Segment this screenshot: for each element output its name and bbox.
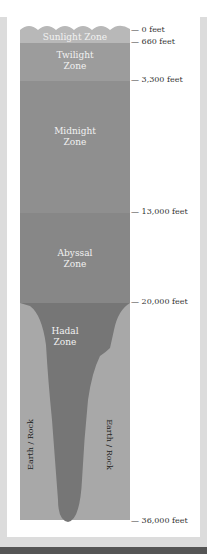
depth-label-660: — 660 feet: [131, 37, 175, 46]
twilight-zone-label: Twilight Zone: [20, 50, 130, 72]
hadal-line1: Hadal: [10, 326, 120, 337]
twilight-line2: Zone: [20, 61, 130, 72]
midnight-line1: Midnight: [20, 126, 130, 137]
sunlight-zone-label: Sunlight Zone: [20, 32, 130, 43]
depth-label-20000: — 20,000 feet: [131, 297, 188, 306]
hadal-line2: Zone: [10, 337, 120, 348]
depth-label-3300: — 3,300 feet: [131, 75, 183, 84]
depth-label-0: — 0 feet: [131, 25, 165, 34]
abyssal-line1: Abyssal: [20, 248, 130, 259]
depth-label-36000: — 36,000 feet: [131, 516, 188, 525]
earth-rock-label-left: Earth / Rock: [26, 419, 35, 470]
midnight-line2: Zone: [20, 137, 130, 148]
earth-rock-label-right: Earth / Rock: [105, 419, 114, 470]
hadal-zone-label: Hadal Zone: [10, 326, 120, 348]
twilight-line1: Twilight: [20, 50, 130, 61]
abyssal-line2: Zone: [20, 259, 130, 270]
abyssal-zone-label: Abyssal Zone: [20, 248, 130, 270]
bottom-edge: [0, 547, 207, 554]
midnight-zone-label: Midnight Zone: [20, 126, 130, 148]
depth-label-13000: — 13,000 feet: [131, 207, 188, 216]
